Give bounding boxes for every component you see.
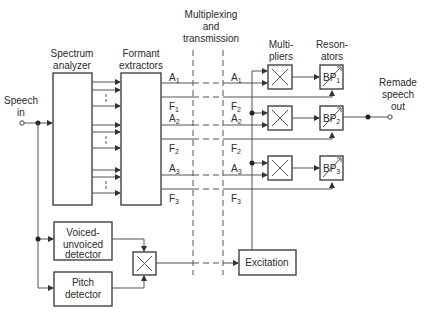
svg-text:out: out — [391, 101, 405, 112]
remade-speech-out-label: Remade speech out — [379, 77, 417, 112]
excitation-multiplier — [133, 252, 156, 275]
svg-text:A1: A1 — [231, 72, 242, 84]
svg-text:A1: A1 — [169, 72, 180, 84]
svg-text:Formant: Formant — [122, 48, 159, 59]
svg-text:detector: detector — [65, 249, 102, 260]
svg-text:in: in — [17, 107, 25, 118]
svg-text:F2: F2 — [231, 143, 241, 155]
excitation-block: Excitation — [239, 250, 296, 275]
formant-extractors-label: Formant extractors — [119, 48, 163, 71]
resonator-bp3: BP3 — [320, 156, 343, 180]
multiplexing-label: Multiplexing and transmission — [183, 9, 239, 44]
multiplier-1 — [268, 65, 292, 89]
svg-text:F3: F3 — [169, 193, 179, 205]
spectrum-analyzer-label: Spectrum analyzer — [51, 48, 94, 71]
svg-text:pliers: pliers — [269, 51, 293, 62]
resonator-bp2: BP2 — [320, 106, 343, 130]
svg-text:detector: detector — [65, 289, 102, 300]
svg-text:analyzer: analyzer — [53, 60, 91, 71]
multiplier-3 — [268, 156, 292, 180]
svg-text:Pitch: Pitch — [72, 277, 94, 288]
svg-text:extractors: extractors — [119, 60, 163, 71]
output-terminal-icon — [388, 115, 392, 119]
svg-text:Excitation: Excitation — [245, 257, 288, 268]
svg-text:A2: A2 — [169, 113, 180, 125]
multipliers-label: Multi- pliers — [269, 39, 293, 62]
analyzer-outputs — [92, 82, 120, 193]
svg-text:F3: F3 — [231, 193, 241, 205]
svg-text:Remade: Remade — [379, 77, 417, 88]
vocoder-diagram: Multiplexing and transmission Spectrum a… — [0, 0, 424, 317]
svg-text:Speech: Speech — [4, 95, 38, 106]
svg-text:and: and — [203, 21, 220, 32]
pitch-detector: Pitch detector — [54, 272, 112, 306]
resonator-bp1: BP1 — [320, 65, 343, 89]
svg-text:F2: F2 — [231, 101, 241, 113]
channel-lines — [161, 83, 332, 189]
speech-in-label: Speech in — [4, 95, 38, 118]
svg-text:Reson-: Reson- — [316, 39, 348, 50]
svg-text:speech: speech — [382, 89, 414, 100]
spectrum-analyzer-block — [53, 73, 92, 205]
junction-dot-icon — [250, 161, 255, 166]
svg-text:ators: ators — [321, 51, 343, 62]
junction-dot-icon — [250, 111, 255, 116]
svg-text:Multi-: Multi- — [269, 39, 293, 50]
formant-extractors-block — [121, 73, 161, 205]
svg-text:A3: A3 — [231, 163, 242, 175]
svg-text:F2: F2 — [169, 143, 179, 155]
input-terminal-icon — [20, 121, 24, 125]
svg-text:A2: A2 — [231, 113, 242, 125]
svg-text:Multiplexing: Multiplexing — [185, 9, 238, 20]
junction-dot-icon — [36, 237, 41, 242]
svg-text:transmission: transmission — [183, 33, 239, 44]
junction-dot-icon — [366, 115, 371, 120]
svg-text:F1: F1 — [169, 101, 179, 113]
multiplier-2 — [268, 106, 292, 130]
svg-text:Spectrum: Spectrum — [51, 48, 94, 59]
voiced-unvoiced-detector: Voiced- unvoiced detector — [54, 222, 112, 260]
resonators-label: Reson- ators — [316, 39, 348, 62]
svg-text:Voiced-: Voiced- — [66, 227, 99, 238]
svg-text:A3: A3 — [169, 163, 180, 175]
